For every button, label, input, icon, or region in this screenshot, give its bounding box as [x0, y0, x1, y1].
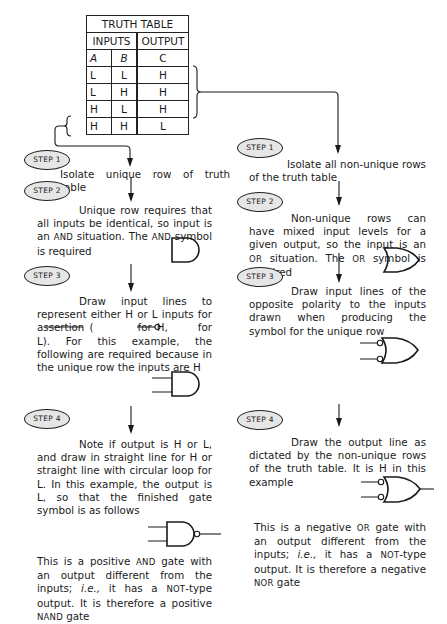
right-step-3-badge: STEP 3: [237, 267, 283, 287]
right-step-4-text: Draw the output line as dictated by the …: [249, 436, 426, 489]
left-step-4-text: Note if output is H or L, and draw in st…: [37, 438, 212, 517]
and-gate-with-inputs-symbol: [152, 372, 199, 396]
left-conclusion: This is a positive AND gate with an outp…: [37, 555, 212, 624]
right-step-1-text: Isolate all non-unique rows of the truth…: [249, 158, 426, 184]
for-h-label: for H,: [138, 321, 168, 333]
left-step-4-badge: STEP 4: [24, 409, 70, 429]
left-step-2-text: Unique row requires that all inputs be i…: [37, 204, 212, 258]
right-step-4-badge: STEP 4: [237, 410, 283, 430]
left-step-1-badge: STEP 1: [24, 150, 70, 170]
brace-non-unique-rows: [193, 66, 201, 118]
for-l-label: for L). For this example, the following …: [37, 321, 212, 373]
right-step-1-badge: STEP 1: [237, 138, 283, 158]
nand-gate-symbol: [148, 522, 221, 546]
right-conclusion: This is a negative OR gate with an outpu…: [254, 521, 426, 590]
left-step-3-badge: STEP 3: [24, 266, 70, 286]
right-step-3-text: Draw input lines of the opposite polarit…: [249, 285, 426, 338]
left-step-3-text: Draw input lines to represent either H o…: [37, 295, 212, 374]
left-step-2-badge: STEP 2: [24, 181, 70, 201]
negative-input-or-gate-symbol: [360, 338, 418, 363]
right-step-2-badge: STEP 2: [237, 192, 283, 212]
brace-unique-row: [64, 116, 71, 136]
left-step-1-text: Isolate unique row of truth table: [60, 168, 230, 194]
